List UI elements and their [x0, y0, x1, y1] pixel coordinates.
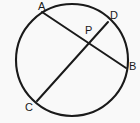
geometry-canvas: [0, 0, 140, 123]
vertex-label-p: P: [85, 25, 92, 36]
vertex-label-c: C: [25, 102, 33, 113]
geometry-figure: A D P B C: [0, 0, 140, 123]
chord-cd: [37, 22, 108, 101]
vertex-label-d: D: [110, 10, 118, 21]
vertex-label-a: A: [38, 1, 45, 12]
vertex-label-b: B: [129, 61, 136, 72]
